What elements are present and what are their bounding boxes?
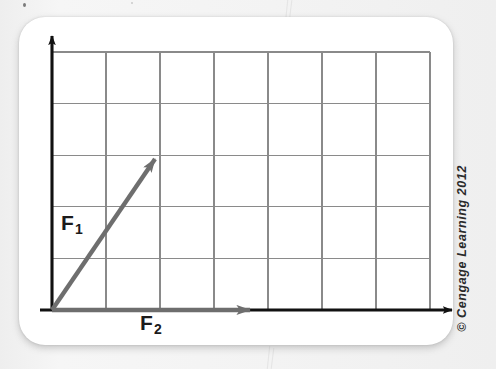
vector-label-f2-subscript: 2 bbox=[154, 321, 162, 337]
figure-page: F1 F2 © Cengage Learning 2012 bbox=[0, 0, 496, 369]
vector-label-f1: F1 bbox=[61, 211, 82, 235]
vector-label-f1-subscript: 1 bbox=[75, 221, 83, 237]
plot-gridlines bbox=[52, 52, 430, 310]
vector-plot bbox=[0, 0, 496, 369]
vector-label-f2: F2 bbox=[140, 311, 161, 335]
vector-label-f1-base: F bbox=[61, 211, 74, 234]
copyright-credit: © Cengage Learning 2012 bbox=[455, 165, 469, 332]
vector-label-f2-base: F bbox=[140, 311, 153, 334]
